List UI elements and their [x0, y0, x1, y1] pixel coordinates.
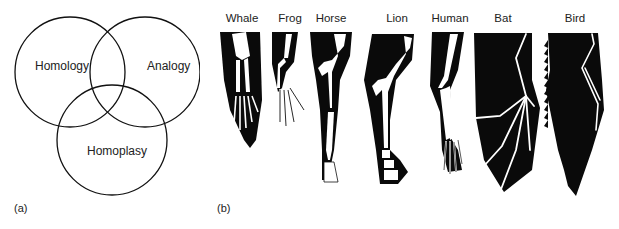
venn-label-analogy: Analogy	[147, 59, 190, 73]
bird-wing	[544, 33, 604, 196]
whale-limb	[220, 32, 262, 148]
limb-illustrations	[200, 0, 619, 229]
panel-b-limb-comparison: Whale Frog Horse Lion Human Bat Bird	[200, 0, 619, 229]
frog-limb	[272, 32, 304, 126]
venn-label-homoplasy: Homoplasy	[87, 144, 147, 158]
panel-label-a: (a)	[14, 202, 27, 214]
panel-a-venn-diagram: Homology Analogy Homoplasy (a)	[0, 0, 200, 229]
human-limb	[430, 32, 464, 174]
venn-circle-homoplasy	[57, 85, 167, 195]
bat-wing	[474, 33, 540, 192]
horse-limb	[310, 32, 352, 182]
venn-diagram	[0, 0, 200, 229]
lion-limb	[364, 34, 414, 184]
venn-label-homology: Homology	[35, 59, 89, 73]
panel-label-b: (b)	[217, 202, 230, 214]
